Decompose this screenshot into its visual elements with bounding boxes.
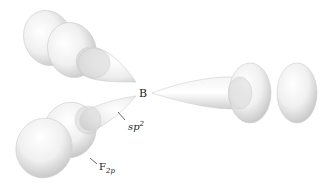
- sp2-lobe-lower-left: [75, 96, 136, 134]
- f2p-label: F2p: [99, 161, 115, 175]
- f2p-leader-line: [90, 158, 97, 164]
- f2p-right: [228, 63, 317, 123]
- sp2-label: sp2: [128, 120, 145, 132]
- sp2-leader-line: [118, 112, 125, 120]
- bf3-orbital-diagram: B sp2 F2p: [0, 0, 335, 184]
- sp2-lobe-upper-left: [76, 47, 136, 82]
- central-atom-label: B: [139, 87, 147, 100]
